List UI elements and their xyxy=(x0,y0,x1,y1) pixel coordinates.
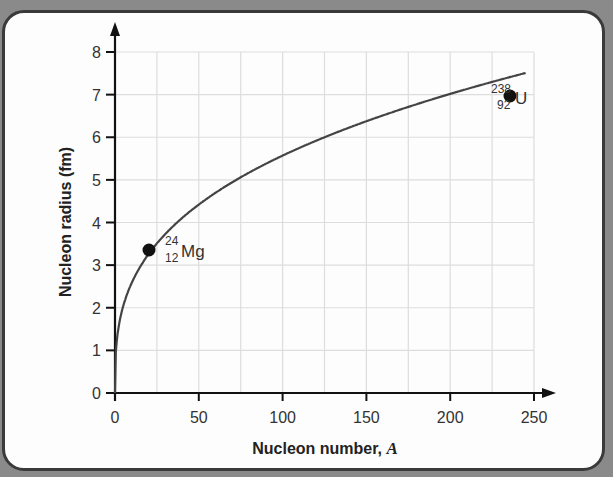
y-tick-label: 6 xyxy=(92,129,101,146)
tick-labels: 050100150200250012345678 xyxy=(92,44,547,426)
y-tick-label: 2 xyxy=(92,300,101,317)
x-tick-label: 250 xyxy=(521,409,548,426)
y-tick-label: 0 xyxy=(92,385,101,402)
y-axis-title: Nucleon radius (fm) xyxy=(57,147,74,297)
svg-text:238: 238 xyxy=(491,82,511,96)
svg-text:24: 24 xyxy=(165,234,179,248)
x-tick-label: 50 xyxy=(190,409,208,426)
svg-text:Mg: Mg xyxy=(181,242,205,261)
radius-curve xyxy=(115,73,526,393)
x-tick-label: 0 xyxy=(111,409,120,426)
svg-text:U: U xyxy=(515,89,527,108)
x-tick-label: 150 xyxy=(353,409,380,426)
y-tick-label: 7 xyxy=(92,87,101,104)
nucleon-radius-chart: 050100150200250012345678 Nucleon radius … xyxy=(0,0,613,477)
point-mg xyxy=(143,244,156,257)
y-tick-label: 3 xyxy=(92,257,101,274)
x-tick-label: 100 xyxy=(269,409,296,426)
svg-text:12: 12 xyxy=(165,251,179,265)
svg-text:92: 92 xyxy=(497,98,511,112)
axes xyxy=(106,22,556,401)
y-tick-label: 4 xyxy=(92,215,101,232)
y-tick-label: 8 xyxy=(92,44,101,61)
y-tick-label: 5 xyxy=(92,172,101,189)
x-axis-title: Nucleon number, A xyxy=(252,439,398,458)
y-tick-label: 1 xyxy=(92,342,101,359)
x-tick-label: 200 xyxy=(437,409,464,426)
